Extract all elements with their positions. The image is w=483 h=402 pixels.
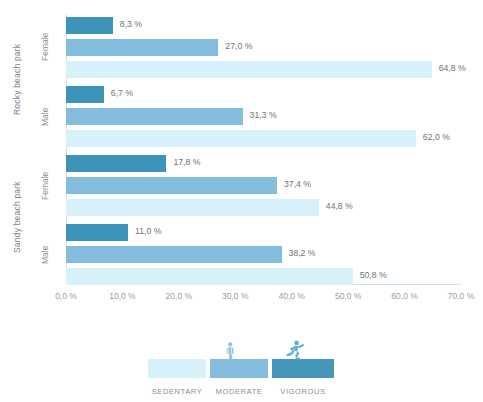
bar-value-label: 50,8 % (360, 270, 387, 280)
subcategory-label-rocky-female: Female (40, 16, 50, 78)
bar-value-label: 38,2 % (289, 248, 316, 258)
legend-label-vigorous: VIGOROUS (272, 387, 334, 396)
bar-value-label: 44,8 % (326, 201, 353, 211)
bar-value-label: 8,3 % (120, 19, 142, 29)
legend-swatch-moderate (210, 359, 268, 378)
bar-vigorous[interactable] (66, 155, 166, 172)
bar-value-label: 62,0 % (423, 132, 450, 142)
category-label-sandy-beach-park: Sandy beach park (12, 152, 22, 282)
category-label-rocky-beach-park: Rocky beach park (12, 14, 22, 144)
subcategory-label-sandy-female: Female (40, 155, 50, 217)
chart-legend: SEDENTARY MODERATE (148, 344, 338, 396)
bar-value-label: 37,4 % (284, 179, 311, 189)
legend-label-sedentary: SEDENTARY (148, 387, 206, 396)
x-tick-label: 70,0 % (448, 291, 474, 301)
bar-value-label: 17,8 % (173, 157, 200, 167)
x-tick-label: 20,0 % (166, 291, 192, 301)
bar-value-label: 6,7 % (111, 88, 133, 98)
horizontal-bar-chart: Rocky beach park Sandy beach park Female… (0, 0, 483, 402)
bar-vigorous[interactable] (66, 224, 128, 241)
legend-label-moderate: MODERATE (210, 387, 268, 396)
bar-moderate[interactable] (66, 108, 243, 125)
x-tick-label: 10,0 % (109, 291, 135, 301)
x-tick-label: 60,0 % (391, 291, 417, 301)
bar-value-label: 11,0 % (135, 226, 161, 236)
plot-area: 8,3 %27,0 %64,8 %6,7 %31,3 %62,0 %17,8 %… (66, 14, 483, 284)
bar-value-label: 27,0 % (225, 41, 252, 51)
legend-swatch-sedentary (148, 359, 206, 378)
running-person-icon (284, 340, 306, 362)
standing-person-icon (224, 342, 237, 361)
bar-sedentary[interactable] (66, 130, 416, 147)
x-tick-label: 50,0 % (335, 291, 361, 301)
bar-sedentary[interactable] (66, 268, 353, 285)
bar-vigorous[interactable] (66, 86, 104, 103)
bar-value-label: 64,8 % (439, 63, 466, 73)
bar-sedentary[interactable] (66, 61, 432, 78)
x-tick-label: 0,0 % (55, 291, 77, 301)
subcategory-label-rocky-male: Male (40, 86, 50, 148)
x-tick-label: 30,0 % (222, 291, 248, 301)
bar-value-label: 31,3 % (250, 110, 277, 120)
bar-moderate[interactable] (66, 39, 218, 56)
subcategory-label-sandy-male: Male (40, 224, 50, 286)
bar-moderate[interactable] (66, 177, 277, 194)
bar-vigorous[interactable] (66, 17, 113, 34)
x-tick-label: 40,0 % (278, 291, 304, 301)
bar-moderate[interactable] (66, 246, 282, 263)
bar-sedentary[interactable] (66, 199, 319, 216)
